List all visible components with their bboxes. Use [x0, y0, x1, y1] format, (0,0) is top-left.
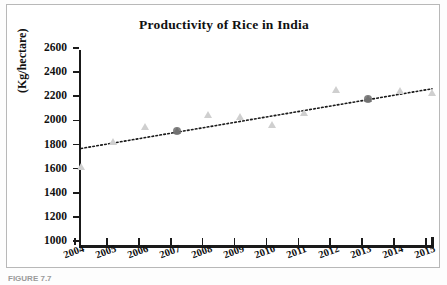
y-axis-tick-label: 2400	[21, 65, 67, 77]
data-point-marker	[77, 163, 85, 170]
y-axis-tick	[73, 71, 79, 73]
y-axis-tick	[73, 144, 79, 146]
y-axis-tick-label: 2000	[21, 113, 67, 125]
data-point-marker	[141, 123, 149, 130]
data-point-marker	[236, 113, 244, 120]
y-axis-tick-label: 1200	[21, 210, 67, 222]
chart-title: Productivity of Rice in India	[7, 17, 441, 33]
trendline	[81, 52, 432, 245]
data-point-marker	[109, 138, 117, 145]
y-axis-tick-label: 1000	[21, 234, 67, 246]
y-axis-tick	[73, 120, 79, 122]
data-point-marker	[428, 89, 436, 96]
y-axis-tick	[73, 216, 79, 218]
y-axis-tick	[73, 192, 79, 194]
data-point-marker	[268, 121, 276, 128]
data-point-marker	[332, 86, 340, 93]
data-point-marker	[396, 87, 404, 94]
y-axis-tick-label: 1400	[21, 186, 67, 198]
highlighted-data-point	[173, 127, 181, 135]
plot-area	[81, 52, 432, 245]
y-axis-tick-label: 1600	[21, 162, 67, 174]
y-axis-tick-label: 2200	[21, 89, 67, 101]
y-axis-tick-label: 2600	[21, 41, 67, 53]
y-axis-title: (Kg/hectare)	[15, 29, 30, 93]
y-axis-tick	[73, 47, 79, 49]
data-point-marker	[204, 111, 212, 118]
figure-frame: Productivity of Rice in India (Kg/hectar…	[6, 4, 440, 268]
y-axis-tick	[73, 95, 79, 97]
figure-caption: FIGURE 7.7	[8, 274, 438, 283]
data-point-marker	[300, 109, 308, 116]
figure-page: Productivity of Rice in India (Kg/hectar…	[0, 0, 447, 285]
y-axis-tick-label: 1800	[21, 138, 67, 150]
